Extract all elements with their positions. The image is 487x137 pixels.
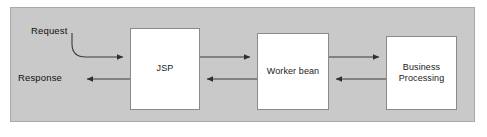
edge-label-response: Response	[18, 72, 62, 83]
node-business-processing: Business Processing	[386, 36, 457, 110]
flow-diagram: Request Response JSP Worker bean Busines…	[0, 0, 487, 137]
node-worker-bean-label: Worker bean	[267, 66, 319, 78]
edge-label-request: Request	[31, 25, 67, 36]
node-business-processing-label: Business Processing	[399, 62, 445, 85]
node-jsp: JSP	[130, 28, 200, 110]
node-worker-bean: Worker bean	[257, 33, 329, 110]
node-jsp-label: JSP	[157, 63, 174, 75]
